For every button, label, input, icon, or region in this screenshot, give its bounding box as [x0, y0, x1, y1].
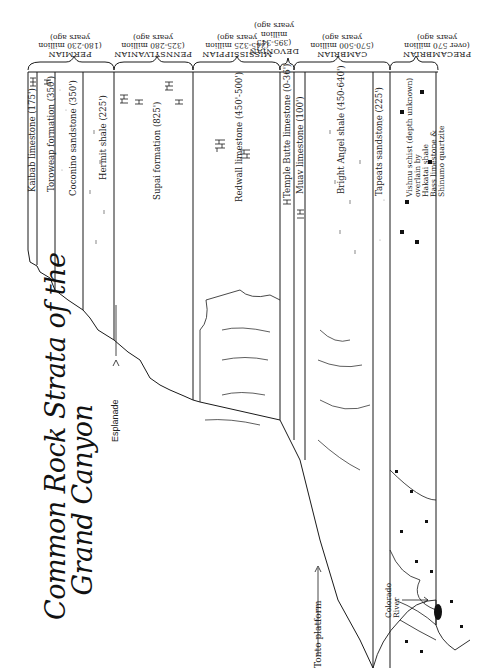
era-age-2: million [248, 30, 300, 39]
layer-supai-formation: Supai formation (825') [152, 102, 162, 200]
era-label-precambrian: PRECAMBRIAN (over 570 million years ago) [396, 33, 478, 59]
era-label-cambrian: CAMBRIAN (570-500 million years ago) [302, 33, 382, 59]
era-label-devonian: DEVONIAN (395-345 million years ago) [248, 21, 300, 55]
era-age-2: years ago) [113, 33, 193, 42]
era-age: (over 570 million [396, 41, 478, 50]
layer-toroweap-formation: Toroweap formation (350') [46, 76, 56, 192]
schist-line-5: Shinumo quartzite [438, 78, 446, 197]
diagram-title: Common Rock Strata of the Grand Canyon [42, 380, 96, 620]
era-name: PERMIAN [27, 50, 113, 59]
layer-vishnu-schist: Vishnu schist (depth unknown) overlain b… [406, 78, 446, 197]
esplanade-label: Esplanade [110, 399, 120, 442]
layer-hermit-shale: Hermit shale (225') [98, 95, 108, 180]
title-line-2: Grand Canyon [69, 380, 96, 620]
era-label-pennsylvanian: PENNSYLVANIAN (325-280 million years ago… [113, 33, 193, 59]
era-age: (325-280 million [113, 41, 193, 50]
title-line-1: Common Rock Strata of the [42, 380, 69, 620]
era-age-2: years ago) [27, 33, 113, 42]
layer-bright-angel-shale: Bright Angel shale (450-640') [336, 65, 346, 194]
layer-muav-limestone: Muav limestone (100') [295, 96, 305, 194]
tonto-platform-label: Tonto platform [313, 600, 323, 668]
era-name: PRECAMBRIAN [396, 50, 478, 59]
grand-canyon-strata-diagram: PERMIAN (180-230 million years ago) PENN… [0, 0, 498, 672]
era-name: DEVONIAN [248, 47, 300, 56]
layer-redwall-limestone: Redwall limestone (450'-500') [234, 72, 244, 202]
layer-tapeats-sandstone: Tapeats sandstone (225') [374, 87, 384, 196]
era-name: CAMBRIAN [302, 50, 382, 59]
layer-kaibab-limestone: Kaibab limestone (175') [27, 88, 37, 192]
river-label-line-2: River [393, 583, 401, 618]
layer-coconino-sandstone: Coconino sandstone (350') [68, 80, 78, 196]
colorado-river-label: Colorado River [385, 583, 401, 618]
era-age-2: years ago) [396, 33, 478, 42]
era-age: (180-230 million [27, 41, 113, 50]
layer-temple-butte-limestone: Temple Butte limestone (0-36') [282, 64, 292, 198]
era-age: (570-500 million [302, 41, 382, 50]
era-age: (395-345 [248, 38, 300, 47]
era-age-3: years ago) [248, 21, 300, 30]
era-age-2: years ago) [302, 33, 382, 42]
era-name: PENNSYLVANIAN [113, 50, 193, 59]
era-label-permian: PERMIAN (180-230 million years ago) [27, 33, 113, 59]
